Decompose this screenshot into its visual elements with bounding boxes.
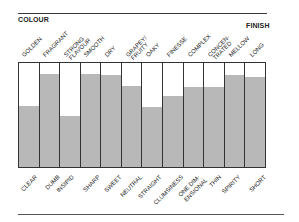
bar-fill bbox=[81, 74, 101, 167]
bar-column bbox=[101, 63, 122, 167]
bar-column bbox=[122, 63, 143, 167]
bar-fill bbox=[245, 77, 265, 167]
bar-column bbox=[204, 63, 225, 167]
bar-fill bbox=[122, 86, 142, 167]
flavour-bar-chart bbox=[18, 62, 266, 168]
bar-column bbox=[245, 63, 265, 167]
bottom-axis-label: CLEAR bbox=[20, 174, 38, 192]
bottom-axis-label: SHARP bbox=[83, 174, 102, 193]
top-axis-label: DRY bbox=[104, 45, 117, 58]
bar-column bbox=[184, 63, 205, 167]
top-axis-label: FINESSE bbox=[166, 36, 188, 58]
bar-column bbox=[163, 63, 184, 167]
bottom-axis-label: SPIRITY bbox=[221, 174, 242, 195]
bottom-axis-label: SWEET bbox=[103, 174, 122, 193]
bar-fill bbox=[163, 96, 183, 167]
top-axis-label: GOLDEN bbox=[21, 36, 43, 58]
finish-header: FINISH bbox=[246, 22, 270, 29]
top-rule bbox=[18, 13, 267, 14]
bottom-axis-label: SHORT bbox=[248, 174, 267, 193]
bar-fill bbox=[40, 74, 60, 167]
bar-column bbox=[60, 63, 81, 167]
bar-fill bbox=[204, 87, 224, 167]
bar-fill bbox=[142, 107, 162, 167]
bottom-rule bbox=[18, 214, 284, 215]
bar-fill bbox=[101, 75, 121, 167]
colour-header: COLOUR bbox=[18, 16, 49, 23]
bottom-axis-label: THIN bbox=[208, 174, 222, 188]
bar-column bbox=[225, 63, 246, 167]
top-axis-label: LONG bbox=[248, 42, 264, 58]
bar-fill bbox=[225, 75, 245, 167]
bar-column bbox=[40, 63, 61, 167]
bar-fill bbox=[184, 87, 204, 167]
bar-column bbox=[142, 63, 163, 167]
bar-fill bbox=[60, 116, 80, 167]
top-axis-label: MELLOW bbox=[228, 35, 251, 58]
bar-fill bbox=[19, 106, 39, 167]
bar-column bbox=[19, 63, 40, 167]
bar-column bbox=[81, 63, 102, 167]
